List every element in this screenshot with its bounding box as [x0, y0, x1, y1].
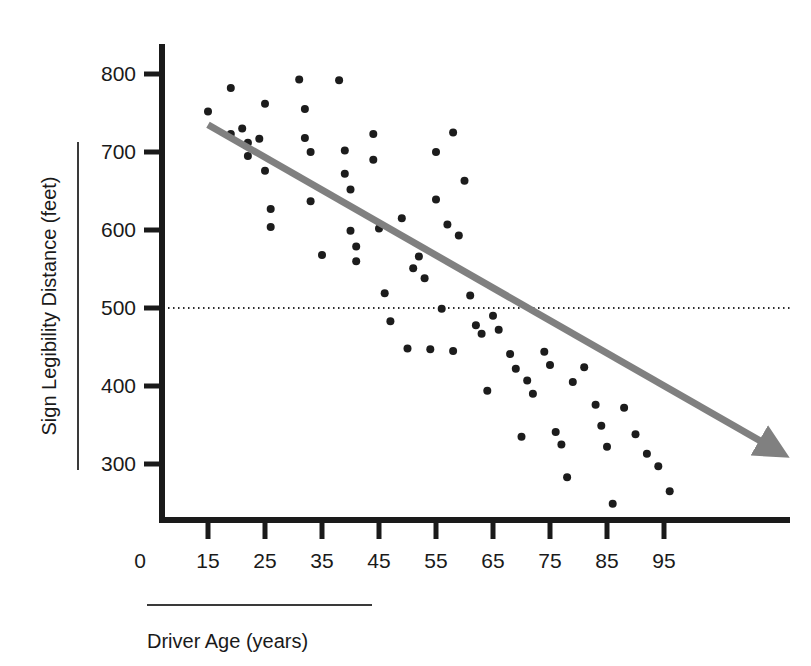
- origin-zero-label: 0: [134, 549, 146, 572]
- x-tick-label: 25: [253, 549, 276, 572]
- scatter-point: [421, 274, 429, 282]
- scatter-point: [592, 401, 600, 409]
- x-tick-label: 35: [310, 549, 333, 572]
- scatter-point: [267, 205, 275, 213]
- x-axis-title-text: Driver Age (years): [147, 630, 308, 652]
- x-axis-ticks: 152535455565758595: [196, 520, 675, 572]
- y-tick-label: 400: [101, 374, 136, 397]
- scatter-point: [546, 361, 554, 369]
- y-axis-ticks: 300400500600700800: [101, 62, 162, 475]
- scatter-point: [307, 148, 315, 156]
- scatter-point: [449, 129, 457, 137]
- scatter-point: [341, 146, 349, 154]
- scatter-point: [557, 441, 565, 449]
- scatter-point: [341, 170, 349, 178]
- scatter-point: [307, 197, 315, 205]
- x-tick-label: 65: [481, 549, 504, 572]
- y-tick-label: 500: [101, 296, 136, 319]
- scatter-point: [518, 433, 526, 441]
- scatter-point: [386, 317, 394, 325]
- scatter-point: [552, 428, 560, 436]
- scatter-point: [563, 473, 571, 481]
- scatter-point: [318, 251, 326, 259]
- scatter-point: [204, 107, 212, 115]
- scatter-point: [666, 487, 674, 495]
- y-tick-label: 700: [101, 140, 136, 163]
- scatter-point: [472, 321, 480, 329]
- x-tick-label: 95: [652, 549, 675, 572]
- scatter-point: [443, 221, 451, 229]
- scatter-point: [512, 365, 520, 373]
- scatter-point: [301, 134, 309, 142]
- scatter-point: [449, 347, 457, 355]
- scatter-point: [455, 231, 463, 239]
- scatter-point: [352, 242, 360, 250]
- x-tick-label: 45: [367, 549, 390, 572]
- scatter-point: [654, 462, 662, 470]
- scatter-point: [352, 257, 360, 265]
- y-tick-label: 300: [101, 452, 136, 475]
- scatter-point: [461, 177, 469, 185]
- scatter-point: [478, 330, 486, 338]
- y-tick-label: 800: [101, 62, 136, 85]
- scatter-point: [335, 76, 343, 84]
- scatter-point: [632, 430, 640, 438]
- scatter-point: [506, 350, 514, 358]
- x-tick-label: 55: [424, 549, 447, 572]
- scatter-point: [347, 227, 355, 235]
- scatter-point: [238, 125, 246, 133]
- scatter-point: [489, 312, 497, 320]
- scatter-point: [255, 135, 263, 143]
- origin-label: 0: [134, 549, 146, 572]
- scatter-point: [432, 148, 440, 156]
- chart-figure: 300400500600700800 152535455565758595 Si…: [0, 0, 811, 666]
- scatter-point: [580, 363, 588, 371]
- scatter-point: [569, 378, 577, 386]
- scatter-point: [261, 100, 269, 108]
- scatter-point: [620, 404, 628, 412]
- scatter-point: [347, 185, 355, 193]
- x-axis-title: Driver Age (years): [147, 605, 372, 652]
- scatter-point: [261, 167, 269, 175]
- x-tick-label: 15: [196, 549, 219, 572]
- x-tick-label: 85: [595, 549, 618, 572]
- scatter-point: [540, 348, 548, 356]
- scatter-point: [267, 223, 275, 231]
- scatter-point: [426, 345, 434, 353]
- scatter-point: [483, 387, 491, 395]
- scatter-point: [609, 500, 617, 508]
- scatter-point: [415, 253, 423, 261]
- scatter-point: [409, 264, 417, 272]
- scatter-point: [529, 390, 537, 398]
- x-tick-label: 75: [538, 549, 561, 572]
- scatter-point: [369, 130, 377, 138]
- scatter-point: [643, 450, 651, 458]
- scatter-point: [381, 289, 389, 297]
- y-axis-title: Sign Legibility Distance (feet): [38, 142, 78, 470]
- scatter-point: [603, 443, 611, 451]
- scatter-point: [227, 84, 235, 92]
- scatter-point: [301, 105, 309, 113]
- scatter-point: [438, 305, 446, 313]
- scatter-point: [523, 377, 531, 385]
- scatter-point: [432, 196, 440, 204]
- scatter-point: [597, 422, 605, 430]
- y-tick-label: 600: [101, 218, 136, 241]
- scatter-plot-svg: 300400500600700800 152535455565758595 Si…: [0, 0, 811, 666]
- scatter-point: [295, 75, 303, 83]
- scatter-point: [404, 345, 412, 353]
- scatter-point: [369, 156, 377, 164]
- scatter-point: [495, 326, 503, 334]
- scatter-point: [398, 214, 406, 222]
- scatter-point: [466, 292, 474, 300]
- y-axis-title-text: Sign Legibility Distance (feet): [38, 176, 60, 435]
